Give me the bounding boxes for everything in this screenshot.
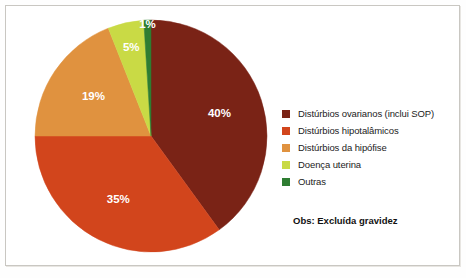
pie-slice-label: 1% [139, 18, 156, 30]
legend-swatch-icon [282, 127, 290, 135]
legend-item-label: Doença uterina [298, 159, 361, 170]
pie-slice-label: 35% [107, 193, 130, 205]
pie-chart-svg: 40%35%19%5%1% [33, 18, 269, 254]
pie-slice-label: 40% [208, 107, 231, 119]
chart-note: Obs: Excluída gravidez [293, 215, 398, 226]
pie-slice-label: 19% [82, 90, 105, 102]
legend-item[interactable]: Doença uterina [282, 156, 462, 173]
pie-slice-group [35, 20, 267, 252]
legend-item[interactable]: Outras [282, 173, 462, 190]
chart-frame: 40%35%19%5%1% Distúrbios ovarianos (incl… [5, 5, 460, 266]
legend-item-label: Outras [298, 176, 326, 187]
legend-swatch-icon [282, 178, 290, 186]
chart-figure: 40%35%19%5%1% Distúrbios ovarianos (incl… [0, 0, 466, 278]
legend-swatch-icon [282, 144, 290, 152]
legend-item-label: Distúrbios hipotalâmicos [298, 125, 399, 136]
legend-swatch-icon [282, 110, 290, 118]
pie-chart: 40%35%19%5%1% [33, 18, 269, 254]
pie-slice-label: 5% [123, 41, 140, 53]
legend-item[interactable]: Distúrbios da hipófise [282, 139, 462, 156]
legend-item-label: Distúrbios ovarianos (inclui SOP) [298, 108, 434, 119]
legend-swatch-icon [282, 161, 290, 169]
legend-item[interactable]: Distúrbios ovarianos (inclui SOP) [282, 105, 462, 122]
legend-item-label: Distúrbios da hipófise [298, 142, 387, 153]
legend-item[interactable]: Distúrbios hipotalâmicos [282, 122, 462, 139]
chart-legend: Distúrbios ovarianos (inclui SOP)Distúrb… [282, 105, 462, 190]
